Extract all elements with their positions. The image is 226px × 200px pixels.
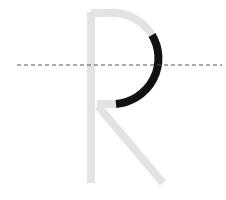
letter-r-diagram — [0, 0, 226, 200]
